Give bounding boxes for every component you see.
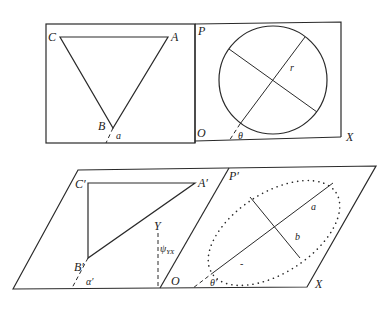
ellipse-major-axis — [214, 183, 333, 272]
axis-x-top — [195, 137, 341, 141]
top-left-panel: C A B a — [46, 24, 195, 143]
label-p-prime: P′ — [228, 169, 239, 183]
label-semi-minor-b: b — [295, 231, 300, 242]
minus-mark: - — [240, 258, 243, 269]
label-b: B — [98, 119, 106, 133]
label-p: P — [197, 24, 206, 38]
label-a: A — [170, 30, 179, 44]
triangle-projection-dash — [106, 128, 113, 143]
label-c-prime: C′ — [75, 177, 86, 191]
label-c: C — [48, 30, 57, 44]
label-x: X — [345, 130, 354, 144]
bottom-right-panel: P′ a b - θ′ X — [190, 159, 358, 307]
label-o-prime: O — [171, 274, 180, 288]
circle-diameter-2 — [240, 37, 305, 124]
label-a-prime: A′ — [197, 176, 208, 190]
bottom-left-panel: C′ A′ B′ α′ Y ψYX O — [72, 176, 208, 288]
label-r: r — [290, 62, 294, 73]
label-o: O — [197, 126, 206, 140]
ellipse-minor-axis — [250, 197, 300, 258]
top-right-panel: P O X r θ — [195, 22, 354, 144]
label-y: Y — [154, 219, 162, 233]
frame-top-right-top — [195, 22, 341, 137]
bottom-plane — [13, 166, 376, 289]
triangle-abc — [60, 37, 168, 128]
projection-diagram: C A B a P O X r θ C′ A′ B′ α′ Y ψYX O — [0, 0, 391, 314]
label-b-prime: B′ — [74, 260, 84, 274]
plane-divider — [160, 168, 229, 288]
label-theta-prime: θ′ — [210, 277, 218, 288]
psi-subscript: YX — [166, 248, 175, 256]
label-angle-a: a — [116, 130, 121, 141]
triangle-abc-prime — [88, 183, 195, 258]
label-alpha-prime: α′ — [86, 276, 94, 287]
label-psi: ψYX — [160, 243, 175, 256]
label-theta: θ — [238, 130, 243, 141]
label-x-prime: X — [314, 277, 323, 291]
diagram-svg: C A B a P O X r θ C′ A′ B′ α′ Y ψYX O — [0, 0, 391, 314]
label-semi-major-a: a — [311, 201, 316, 212]
